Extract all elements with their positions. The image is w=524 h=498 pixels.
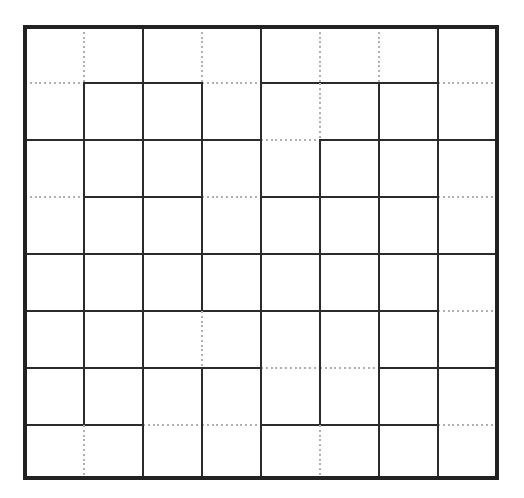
grid-cell[interactable] — [261, 197, 320, 254]
grid-cell[interactable] — [25, 425, 84, 478]
grid-cell[interactable] — [261, 425, 320, 478]
grid-cell[interactable] — [379, 197, 438, 254]
grid-cell[interactable] — [261, 27, 320, 83]
grid-cell[interactable] — [438, 254, 497, 311]
grid-cell[interactable] — [84, 27, 143, 83]
grid-cell[interactable] — [438, 197, 497, 254]
grid-cell[interactable] — [438, 311, 497, 368]
grid-cell[interactable] — [84, 140, 143, 197]
grid-cell[interactable] — [25, 311, 84, 368]
grid-cell[interactable] — [320, 140, 379, 197]
grid-cell[interactable] — [25, 197, 84, 254]
grid-cell[interactable] — [143, 254, 202, 311]
grid-cell[interactable] — [379, 27, 438, 83]
grid-cell[interactable] — [143, 140, 202, 197]
grid-cell[interactable] — [202, 140, 261, 197]
grid-cell[interactable] — [320, 311, 379, 368]
grid-cell[interactable] — [261, 83, 320, 140]
grid-cell[interactable] — [25, 254, 84, 311]
grid-cell[interactable] — [202, 254, 261, 311]
grid-cell[interactable] — [25, 140, 84, 197]
grid-cell[interactable] — [320, 197, 379, 254]
grid-cell[interactable] — [84, 425, 143, 478]
grid-svg-canvas — [0, 0, 524, 498]
grid-cell[interactable] — [261, 254, 320, 311]
grid-cell[interactable] — [438, 425, 497, 478]
grid-cell[interactable] — [143, 311, 202, 368]
grid-cell[interactable] — [143, 27, 202, 83]
grid-cell[interactable] — [25, 368, 84, 425]
grid-cell[interactable] — [320, 27, 379, 83]
grid-cell[interactable] — [202, 368, 261, 425]
grid-cell[interactable] — [84, 83, 143, 140]
grid-cell[interactable] — [261, 140, 320, 197]
grid-cell[interactable] — [261, 311, 320, 368]
grid-cell[interactable] — [379, 140, 438, 197]
grid-cell[interactable] — [143, 197, 202, 254]
grid-cell[interactable] — [320, 425, 379, 478]
grid-cell[interactable] — [320, 368, 379, 425]
grid-cell[interactable] — [143, 425, 202, 478]
grid-cell[interactable] — [438, 140, 497, 197]
grid-cell[interactable] — [438, 27, 497, 83]
grid-cell[interactable] — [84, 197, 143, 254]
grid-cell[interactable] — [320, 83, 379, 140]
grid-cell[interactable] — [438, 83, 497, 140]
grid-cell[interactable] — [202, 27, 261, 83]
grid-cell[interactable] — [261, 368, 320, 425]
grid-cell[interactable] — [84, 254, 143, 311]
grid-cell[interactable] — [143, 83, 202, 140]
grid-cell[interactable] — [379, 311, 438, 368]
grid-cell[interactable] — [379, 368, 438, 425]
grid-cell[interactable] — [202, 197, 261, 254]
grid-cell[interactable] — [202, 311, 261, 368]
grid-cell[interactable] — [202, 83, 261, 140]
grid-diagram — [0, 0, 524, 498]
grid-cell[interactable] — [25, 83, 84, 140]
grid-cell[interactable] — [84, 368, 143, 425]
grid-cell[interactable] — [379, 425, 438, 478]
grid-cell[interactable] — [202, 425, 261, 478]
grid-cell[interactable] — [84, 311, 143, 368]
grid-cell[interactable] — [379, 83, 438, 140]
grid-cell[interactable] — [143, 368, 202, 425]
grid-cell[interactable] — [438, 368, 497, 425]
grid-cell[interactable] — [379, 254, 438, 311]
grid-cell[interactable] — [25, 27, 84, 83]
grid-cell[interactable] — [320, 254, 379, 311]
